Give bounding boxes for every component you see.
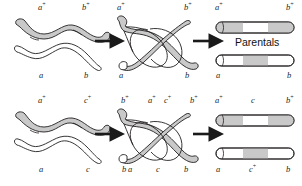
bottom-stage-3-chromosomes	[216, 115, 294, 159]
allele-label-a-top2: a	[119, 71, 123, 80]
allele-label-b-top3: b	[287, 71, 291, 80]
allele-label-a-top1: a	[39, 71, 43, 80]
recombinant-chromosome-upper-left-band	[216, 115, 243, 126]
shaded-chromatid-bottom-1	[16, 112, 110, 135]
diagram-canvas	[0, 0, 302, 186]
allele-label-b-plus-top1: b+	[82, 3, 90, 12]
parental-chromosome-upper-left-band	[216, 22, 243, 33]
top-stage-1-chromosomes	[14, 19, 110, 71]
allele-label-b-plus-top2: b+	[184, 3, 192, 12]
parentals-caption: Parentals	[235, 37, 279, 48]
unshaded-knob-top-2	[119, 62, 127, 70]
allele-label-c-plus-bot1: c+	[84, 96, 91, 105]
crossing-over-diagram: a+ b+ a b a+ b+ a b a+ b+ a b Parentals …	[0, 0, 302, 186]
allele-label-b-top2: b	[185, 71, 189, 80]
bottom-stage-1-chromosomes	[14, 112, 110, 164]
allele-label-b-plus-top3: b+	[286, 3, 294, 12]
top-stage-2-chromosomes	[118, 16, 199, 71]
allele-label-a-plus-bot3: a+	[215, 96, 223, 105]
allele-label-c-plus-bot2: c+	[164, 96, 171, 105]
allele-label-c-bot1: c	[86, 165, 90, 174]
allele-label-c-bot3: c	[251, 96, 255, 105]
allele-label-a-bot3: a	[216, 165, 220, 174]
bottom-stage-2-chromosomes	[118, 109, 199, 164]
parental-chromosome-upper-right-band	[268, 22, 294, 33]
allele-label-a-top3: a	[216, 71, 220, 80]
allele-label-c-plus-bot3: c+	[249, 165, 256, 174]
allele-label-b-bot2: b	[184, 165, 188, 174]
allele-label-a-plus-top1: a+	[38, 3, 46, 12]
recombinant-chromosome-lower-band	[243, 148, 268, 159]
allele-label-b-plus-bot1: b+	[121, 96, 129, 105]
allele-label-a-bot2: a	[128, 165, 132, 174]
allele-label-a-plus-bot1: a+	[38, 96, 46, 105]
allele-label-b-bot3: b	[286, 165, 290, 174]
allele-label-b-top1: b	[84, 71, 88, 80]
allele-label-b-plus-bot3: b+	[286, 96, 294, 105]
unshaded-chromatid-top-1	[14, 43, 101, 70]
unshaded-chromatid-bottom-1	[14, 136, 101, 163]
allele-label-c-bot2: c	[156, 165, 160, 174]
allele-label-b-bot1: b	[122, 165, 126, 174]
allele-label-a-bot1: a	[39, 165, 43, 174]
allele-label-b-plus-bot2: b+	[190, 96, 198, 105]
allele-label-a-plus-top3: a+	[215, 3, 223, 12]
allele-label-a-plus-top2: a+	[117, 3, 125, 12]
unshaded-knob-bottom-2	[119, 155, 127, 163]
parental-chromosome-lower-band	[243, 55, 268, 66]
allele-label-a-plus-bot2: a+	[148, 96, 156, 105]
recombinant-chromosome-upper-right-band	[268, 115, 294, 126]
shaded-chromatid-top-1	[16, 19, 110, 42]
